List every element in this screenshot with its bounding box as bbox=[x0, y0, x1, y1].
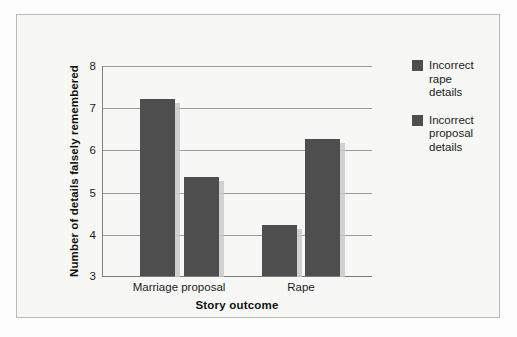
legend: Incorrect rape details Incorrect proposa… bbox=[412, 59, 512, 168]
bar-marriage-incorrect-rape[interactable] bbox=[140, 99, 175, 276]
y-tick-label-6: 6 bbox=[90, 144, 96, 156]
x-axis-title: Story outcome bbox=[195, 299, 278, 311]
gridline-3: 3 bbox=[103, 276, 372, 277]
legend-label-incorrect-rape-details: Incorrect rape details bbox=[429, 59, 474, 100]
y-tick-label-4: 4 bbox=[90, 229, 96, 241]
legend-label-line-1: Incorrect bbox=[429, 114, 474, 126]
legend-label-line-1: Incorrect bbox=[429, 59, 474, 71]
legend-item-incorrect-proposal-details[interactable]: Incorrect proposal details bbox=[412, 114, 512, 155]
y-tick-label-8: 8 bbox=[90, 60, 96, 72]
y-tick-label-3: 3 bbox=[90, 270, 96, 282]
figure-container: Number of details falsely remembered 8 7… bbox=[0, 0, 517, 337]
legend-label-line-3: details bbox=[429, 141, 462, 153]
legend-label-line-2: rape bbox=[429, 73, 452, 85]
bar-rape-incorrect-proposal[interactable] bbox=[305, 139, 340, 276]
legend-swatch-icon bbox=[412, 60, 423, 71]
x-tick-label-rape: Rape bbox=[287, 281, 315, 293]
x-tick-label-marriage-proposal: Marriage proposal bbox=[133, 281, 226, 293]
legend-swatch-icon bbox=[412, 115, 423, 126]
bar-rape-incorrect-rape[interactable] bbox=[262, 225, 297, 276]
y-tick-label-7: 7 bbox=[90, 102, 96, 114]
legend-label-line-3: details bbox=[429, 86, 462, 98]
y-tick-label-5: 5 bbox=[90, 187, 96, 199]
figure-frame: Number of details falsely remembered 8 7… bbox=[16, 14, 500, 318]
legend-label-line-2: proposal bbox=[429, 127, 473, 139]
gridline-8: 8 bbox=[103, 66, 372, 67]
plot-area: 8 7 6 5 4 3 bbox=[102, 66, 372, 277]
y-axis-title: Number of details falsely remembered bbox=[68, 65, 80, 277]
y-axis-line bbox=[102, 66, 103, 277]
legend-item-incorrect-rape-details[interactable]: Incorrect rape details bbox=[412, 59, 512, 100]
bar-marriage-incorrect-proposal[interactable] bbox=[184, 177, 219, 276]
legend-label-incorrect-proposal-details: Incorrect proposal details bbox=[429, 114, 474, 155]
